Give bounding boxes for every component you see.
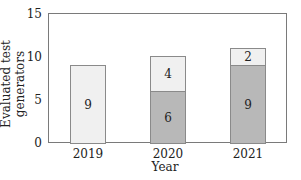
xtick-2020: 2020 (148, 147, 188, 161)
bar-label: 2 (244, 50, 252, 64)
xtick-2021: 2021 (228, 147, 268, 161)
bar-2020-top: 4 (150, 56, 186, 92)
bar-label: 9 (244, 98, 252, 112)
y-axis-label: Evaluated test generators (0, 19, 27, 149)
bar-label: 4 (164, 67, 172, 81)
bar-label: 6 (164, 111, 172, 125)
bar-label: 9 (84, 98, 92, 112)
xtick-2019: 2019 (68, 147, 108, 161)
bar-2020-bottom: 6 (150, 91, 186, 144)
bar-2021-top: 2 (230, 48, 266, 66)
x-axis-label: Year (140, 160, 190, 174)
bar-2021-bottom: 9 (230, 65, 266, 144)
bar-2019-top: 9 (70, 65, 106, 144)
